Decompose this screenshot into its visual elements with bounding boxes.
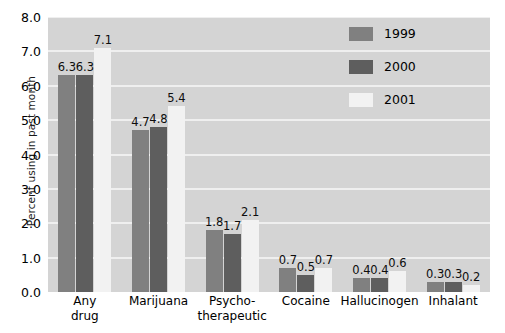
bar-value-label: 0.7 bbox=[279, 253, 297, 267]
y-axis-tick-label: 3.0 bbox=[21, 181, 41, 196]
legend-swatch-2000 bbox=[349, 60, 373, 74]
x-axis-category-label: Anydrug bbox=[71, 294, 99, 324]
bar-value-label: 0.7 bbox=[315, 253, 333, 267]
y-axis-tick-label: 0.0 bbox=[21, 285, 41, 300]
bar-value-label: 0.4 bbox=[352, 263, 370, 277]
bar bbox=[315, 268, 332, 292]
x-axis-category-label: Inhalant bbox=[429, 294, 478, 309]
bar-value-label: 1.8 bbox=[205, 215, 223, 229]
legend-item[interactable]: 2001 bbox=[349, 91, 416, 108]
bar bbox=[242, 220, 259, 292]
gridline bbox=[48, 119, 490, 121]
y-axis-tick-label: 8.0 bbox=[21, 10, 41, 25]
x-axis-category-label: Marijuana bbox=[129, 294, 188, 309]
gridline bbox=[48, 188, 490, 190]
legend-label: 2000 bbox=[384, 59, 416, 74]
bar bbox=[389, 271, 406, 292]
bar-value-label: 1.7 bbox=[223, 219, 241, 233]
legend-label: 2001 bbox=[384, 92, 416, 107]
bar-value-label: 0.5 bbox=[297, 260, 315, 274]
bar bbox=[94, 48, 111, 292]
bar bbox=[427, 282, 444, 292]
bar bbox=[297, 275, 314, 292]
bar bbox=[371, 278, 388, 292]
bar-value-label: 6.3 bbox=[76, 60, 94, 74]
bar-value-label: 4.7 bbox=[131, 115, 149, 129]
bar bbox=[168, 106, 185, 292]
legend-item[interactable]: 1999 bbox=[349, 25, 416, 42]
x-axis-category-labels: AnydrugMarijuanaPsycho-therapeuticCocain… bbox=[48, 294, 490, 333]
bar-value-label: 0.2 bbox=[462, 270, 480, 284]
bar bbox=[132, 130, 149, 292]
x-axis-category-label-line: Inhalant bbox=[429, 294, 478, 309]
bar-value-label: 0.3 bbox=[444, 267, 462, 281]
x-axis-category-label-line: Cocaine bbox=[282, 294, 330, 309]
legend-label: 1999 bbox=[384, 26, 416, 41]
y-axis-tick-label: 7.0 bbox=[21, 44, 41, 59]
x-axis-category-label-line: Marijuana bbox=[129, 294, 188, 309]
y-axis-tick-label: 4.0 bbox=[21, 147, 41, 162]
y-axis-tick-label: 6.0 bbox=[21, 78, 41, 93]
gridline bbox=[48, 222, 490, 224]
bar bbox=[76, 75, 93, 292]
legend-item[interactable]: 2000 bbox=[349, 58, 416, 75]
x-axis-category-label-line: Hallucinogen bbox=[340, 294, 418, 309]
bar-value-label: 4.8 bbox=[149, 112, 167, 126]
bar bbox=[224, 234, 241, 292]
bar bbox=[58, 75, 75, 292]
gridline bbox=[48, 17, 490, 18]
x-axis-category-label-line: Any bbox=[71, 294, 99, 309]
bar-value-label: 5.4 bbox=[167, 91, 185, 105]
bar bbox=[353, 278, 370, 292]
bar-value-label: 7.1 bbox=[94, 33, 112, 47]
bar bbox=[279, 268, 296, 292]
bar-value-label: 2.1 bbox=[241, 205, 259, 219]
legend-swatch-1999 bbox=[349, 27, 373, 41]
bar bbox=[445, 282, 462, 292]
bar-value-label: 6.3 bbox=[58, 60, 76, 74]
legend-swatch-2001 bbox=[349, 93, 373, 107]
legend: 199920002001 bbox=[349, 25, 449, 108]
y-axis-tick-label: 1.0 bbox=[21, 250, 41, 265]
gridline bbox=[48, 257, 490, 259]
bar-value-label: 0.4 bbox=[370, 263, 388, 277]
x-axis-category-label-line: therapeutic bbox=[198, 309, 267, 324]
bar bbox=[150, 127, 167, 292]
y-axis-tick-label: 2.0 bbox=[21, 216, 41, 231]
bar bbox=[206, 230, 223, 292]
bar-chart: Percent using in past month 0.01.02.03.0… bbox=[0, 0, 505, 333]
x-axis-category-label-line: Psycho- bbox=[198, 294, 267, 309]
bar bbox=[463, 285, 480, 292]
bar-value-label: 0.6 bbox=[388, 256, 406, 270]
x-axis-category-label-line: drug bbox=[71, 309, 99, 324]
y-axis-tick-labels: 0.01.02.03.04.05.06.07.08.0 bbox=[0, 0, 44, 333]
x-axis-category-label: Hallucinogen bbox=[340, 294, 418, 309]
y-axis-tick-label: 5.0 bbox=[21, 113, 41, 128]
gridline bbox=[48, 154, 490, 156]
bar-value-label: 0.3 bbox=[426, 267, 444, 281]
x-axis-category-label: Cocaine bbox=[282, 294, 330, 309]
x-axis-category-label: Psycho-therapeutic bbox=[198, 294, 267, 324]
